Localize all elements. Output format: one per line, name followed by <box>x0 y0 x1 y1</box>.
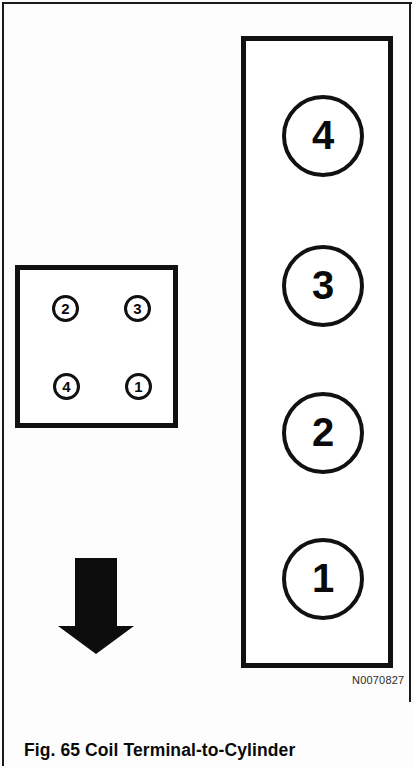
coil-terminal-4: 4 <box>282 95 364 177</box>
coil-terminal-3: 3 <box>282 245 364 327</box>
page-frame-right-rule <box>409 2 411 702</box>
figure-reference-code: N0070827 <box>352 674 404 686</box>
coil-terminal-2: 2 <box>282 392 364 474</box>
page-frame-top-rule <box>2 2 412 4</box>
coil-terminal-4-label: 4 <box>312 115 334 155</box>
coil-terminal-3-label: 3 <box>312 265 334 305</box>
figure-caption: Fig. 65 Coil Terminal-to-Cylinder <box>24 740 295 761</box>
coil-terminal-1: 1 <box>282 538 364 620</box>
ignition-coil-pack: 4 3 2 1 <box>241 36 393 668</box>
cylinder-port-3: 3 <box>124 295 151 322</box>
figure-page: 4 3 2 1 2 3 4 1 N0070827 Fig. 65 Coil Te… <box>0 0 414 768</box>
cylinder-port-2: 2 <box>52 295 79 322</box>
coil-terminal-2-label: 2 <box>312 412 334 452</box>
cylinder-port-1: 1 <box>125 373 152 400</box>
page-frame-left-rule <box>2 2 4 766</box>
cylinder-port-3-label: 3 <box>133 301 141 316</box>
direction-arrow-icon <box>58 558 134 654</box>
coil-terminal-1-label: 1 <box>312 558 334 598</box>
cylinder-block: 2 3 4 1 <box>15 265 178 428</box>
cylinder-port-4: 4 <box>53 373 80 400</box>
cylinder-port-1-label: 1 <box>134 379 142 394</box>
cylinder-port-2-label: 2 <box>61 301 69 316</box>
cylinder-port-4-label: 4 <box>62 379 70 394</box>
